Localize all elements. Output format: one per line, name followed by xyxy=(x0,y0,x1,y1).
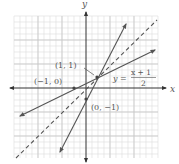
x-axis-label: x xyxy=(170,84,175,94)
equation-y-equals: y = xyxy=(112,74,127,83)
label-point-m1-0: (−1, 0) xyxy=(34,77,62,86)
point-1-1 xyxy=(95,75,98,78)
graph: x y (1, 1) (−1, 0) (0, −1) y = x + 1 2 xyxy=(0,0,179,164)
point-0-m1 xyxy=(84,97,87,100)
equation-numerator: x + 1 xyxy=(131,68,151,77)
label-point-1-1: (1, 1) xyxy=(55,61,77,70)
point-m1-0 xyxy=(72,86,75,89)
y-axis-label: y xyxy=(81,0,88,9)
equation-denominator: 2 xyxy=(141,79,146,88)
label-point-0-m1: (0, −1) xyxy=(91,103,119,112)
